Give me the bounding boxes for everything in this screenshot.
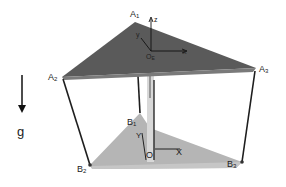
link-a1-b1 <box>138 76 140 113</box>
label-a1: A1 <box>130 9 140 19</box>
label-base-y: Y <box>136 131 142 140</box>
label-b2: B2 <box>77 164 87 174</box>
label-top-z: z <box>154 16 158 23</box>
joint-b3 <box>240 160 244 164</box>
label-a2: A2 <box>48 72 58 82</box>
label-base-origin: O <box>146 150 153 160</box>
label-top-x: x <box>183 48 187 55</box>
link-a2-b2 <box>63 79 90 165</box>
label-a3: A3 <box>259 64 269 74</box>
gravity-arrow <box>18 75 26 113</box>
mechanism-diagram: A1 A2 A3 B1 B2 B3 z x y OE O X Y g <box>0 0 286 187</box>
label-base-x: X <box>176 147 182 157</box>
joint-b2 <box>88 163 92 167</box>
label-gravity: g <box>17 124 24 139</box>
base-plate <box>90 113 242 169</box>
link-a3-b3 <box>242 71 255 162</box>
top-plate <box>62 22 256 77</box>
label-top-y: y <box>136 31 140 39</box>
label-top-origin: OE <box>146 53 155 61</box>
